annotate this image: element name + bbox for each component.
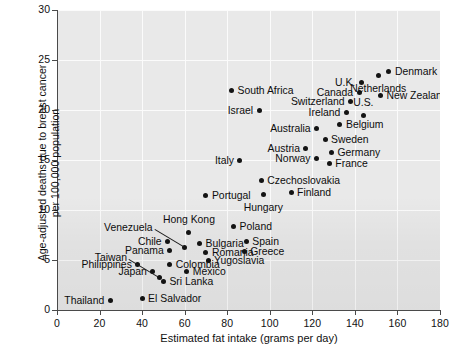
gridline-horizontal (57, 10, 440, 11)
data-point (186, 230, 191, 235)
data-point-label: Sweden (331, 134, 369, 145)
data-point (237, 158, 242, 163)
data-point (289, 190, 294, 195)
y-axis-title-line2: per 100,000 population (49, 13, 62, 313)
x-tick-mark (185, 311, 186, 315)
data-point (314, 126, 319, 131)
data-point (229, 88, 234, 93)
data-point-label: Hungary (244, 202, 283, 213)
x-tick-label: 80 (207, 317, 247, 329)
x-tick-label: 20 (80, 317, 120, 329)
data-point-label: Hong Kong (163, 214, 215, 225)
y-axis-title-line1: Age-adjusted deaths due to breast cancer (36, 13, 49, 313)
plot-panel: ThailandEl SalvadorPhilippinesJapanTaiwa… (57, 10, 440, 310)
x-tick-mark (142, 311, 143, 315)
data-point (167, 262, 172, 267)
data-point-label: Canada (317, 87, 353, 98)
data-point (361, 113, 366, 118)
gridline-horizontal (57, 160, 440, 161)
data-point (203, 250, 208, 255)
y-tick-mark (52, 10, 57, 11)
data-point-label: Belgium (346, 119, 384, 130)
gridline-horizontal (57, 60, 440, 61)
data-point-label: Mexico (193, 266, 226, 277)
data-point (140, 296, 145, 301)
x-tick-mark (355, 311, 356, 315)
data-point-label: Thailand (64, 295, 104, 306)
data-point (378, 93, 383, 98)
data-point-label: Australia (270, 123, 310, 134)
x-tick-label: 120 (292, 317, 332, 329)
x-tick-label: 140 (335, 317, 375, 329)
data-point-label: Greece (250, 246, 284, 257)
data-point (206, 258, 211, 263)
data-point-label: Germany (337, 147, 380, 158)
data-point (314, 156, 319, 161)
data-point (242, 249, 247, 254)
x-tick-mark (397, 311, 398, 315)
data-point-label: Sri Lanka (169, 276, 213, 287)
y-axis-title: Age-adjusted deaths due to breast cancer… (36, 13, 62, 313)
data-point-label: South Africa (237, 85, 293, 96)
x-tick-label: 40 (122, 317, 162, 329)
data-point (108, 298, 113, 303)
data-point (303, 146, 308, 151)
x-tick-mark (270, 311, 271, 315)
data-point-label: Portugal (212, 190, 251, 201)
x-axis-line (57, 310, 441, 311)
data-point (259, 178, 264, 183)
x-tick-label: 60 (165, 317, 205, 329)
data-point-label: Taiwan (95, 252, 127, 263)
data-point-label: Poland (240, 221, 272, 232)
data-point-label: U.S. (353, 97, 373, 108)
data-point-label: Italy (215, 155, 234, 166)
data-point-label: Venezuela (104, 222, 153, 233)
data-point-label: New Zealand (386, 90, 440, 101)
x-tick-label: 180 (420, 317, 460, 329)
data-point-label: Israel (228, 105, 253, 116)
data-point-label: Ireland (309, 107, 341, 118)
data-point-label: Norway (275, 153, 310, 164)
x-tick-label: 160 (377, 317, 417, 329)
data-point (344, 110, 349, 115)
data-point-label: Czechoslovakia (267, 175, 340, 186)
data-point (257, 108, 262, 113)
data-point (337, 122, 342, 127)
data-point (329, 150, 334, 155)
data-point (197, 241, 202, 246)
data-point (327, 161, 332, 166)
data-point (376, 73, 381, 78)
data-point (184, 269, 189, 274)
x-tick-label: 100 (250, 317, 290, 329)
data-point-label: Chile (138, 236, 162, 247)
data-point (261, 192, 266, 197)
data-point-label: France (335, 158, 367, 169)
data-point-label: Denmark (395, 66, 437, 77)
x-tick-mark (440, 311, 441, 315)
data-point (323, 137, 328, 142)
x-tick-mark (100, 311, 101, 315)
scatter-plot-figure: ThailandEl SalvadorPhilippinesJapanTaiwa… (0, 0, 461, 353)
data-point (167, 248, 172, 253)
x-tick-mark (227, 311, 228, 315)
data-point-label: El Salvador (148, 293, 201, 304)
data-point (231, 224, 236, 229)
data-point (203, 193, 208, 198)
data-point (244, 239, 249, 244)
data-point (161, 279, 166, 284)
data-point-label: Finland (297, 187, 331, 198)
x-tick-mark (312, 311, 313, 315)
x-axis-title: Estimated fat intake (grams per day) (57, 332, 441, 344)
data-point (386, 69, 391, 74)
